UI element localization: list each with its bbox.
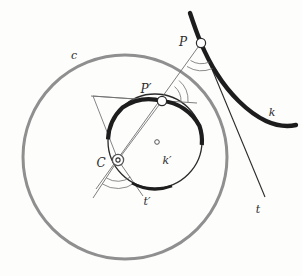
- point-marker-C-inner: [116, 158, 120, 162]
- label-t-prime: t′: [144, 195, 151, 208]
- label-k: k: [269, 106, 276, 119]
- angle-arc-pprime-2: [179, 81, 188, 103]
- geometry-figure: c k k′ t t′ P P′ C: [0, 0, 302, 276]
- angle-arc-p-2: [187, 67, 213, 71]
- label-t: t: [256, 203, 261, 216]
- arc-k-prime-thick: [108, 99, 202, 145]
- angle-arc-p-1: [191, 61, 210, 64]
- point-marker-k-prime-center: [155, 140, 160, 145]
- ray-C-lower-right: [118, 160, 143, 196]
- figure-canvas: c k k′ t t′ P P′ C: [0, 0, 302, 276]
- label-k-prime: k′: [162, 154, 172, 167]
- circle-c: [23, 55, 227, 259]
- label-P-prime: P′: [140, 82, 152, 96]
- ray-through-C-Pprime-P: [96, 43, 201, 189]
- label-C: C: [96, 156, 105, 170]
- label-P: P: [178, 35, 188, 49]
- angle-arc-c-1: [107, 177, 131, 181]
- point-marker-P: [196, 38, 205, 47]
- curve-k: [190, 13, 296, 126]
- point-marker-P-prime: [157, 96, 166, 105]
- label-c: c: [71, 49, 77, 62]
- angle-arc-c-2: [103, 183, 135, 189]
